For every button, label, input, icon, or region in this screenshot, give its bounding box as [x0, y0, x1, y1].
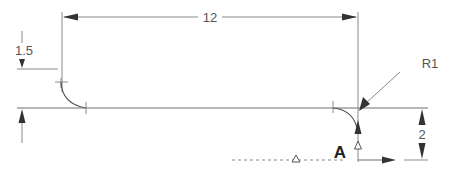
radius-label: R1	[422, 56, 439, 71]
dimension-label-1-5: 1.5	[15, 43, 33, 58]
offset-arrowhead-down	[419, 143, 426, 159]
arrowhead-right	[342, 14, 357, 21]
radius-callout: R1	[359, 56, 438, 111]
fillet-arc-right	[333, 108, 358, 133]
fillet-arc-left	[61, 82, 86, 108]
datum-a-vertical: A	[334, 120, 362, 162]
radius-leader-line	[365, 72, 400, 104]
offset-arrowhead-up	[419, 109, 426, 125]
technical-drawing: 12 1.5 R1	[0, 0, 449, 171]
left-datum-arrow	[19, 109, 26, 143]
dimension-label-2: 2	[418, 127, 425, 142]
datum-a-horizontal	[232, 155, 396, 164]
dimension-overall-length: 12	[62, 10, 358, 162]
datum-triangle-horizontal-icon	[292, 155, 300, 162]
datum-arrowhead-right	[382, 157, 396, 164]
arrowhead-left	[63, 14, 78, 21]
datum-triangle-vertical-icon	[355, 141, 362, 149]
radius-leader-arrowhead	[359, 97, 370, 111]
dimension-label-12: 12	[203, 10, 217, 25]
datum-label-a: A	[334, 143, 346, 162]
arrowhead-down-step	[19, 59, 25, 68]
drawing-svg: 12 1.5 R1	[0, 0, 449, 171]
left-arrowhead-up	[19, 109, 26, 123]
dimension-datum-offset: 2	[404, 109, 428, 160]
dimension-step-height: 1.5	[15, 31, 58, 69]
